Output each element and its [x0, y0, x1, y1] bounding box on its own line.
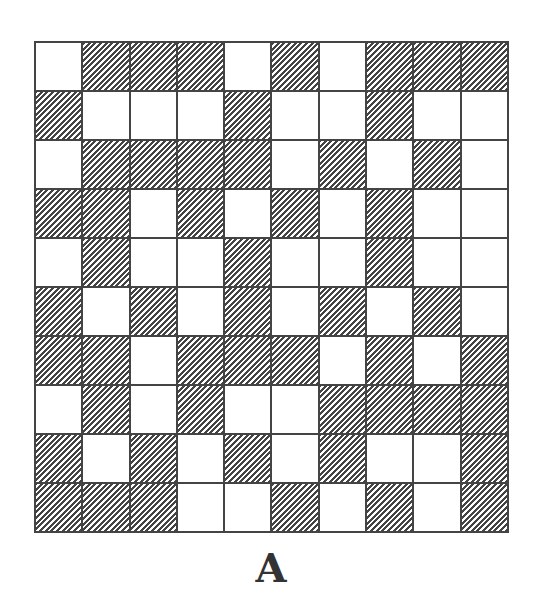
white-cell [272, 92, 317, 139]
white-cell [178, 92, 223, 139]
hatched-cell [367, 484, 412, 531]
hatched-cell [83, 386, 128, 433]
hatched-cell [131, 288, 176, 335]
white-cell [272, 239, 317, 286]
white-cell [225, 386, 270, 433]
hatched-cell [272, 43, 317, 90]
white-cell [36, 43, 81, 90]
white-cell [225, 190, 270, 237]
white-cell [83, 288, 128, 335]
hatched-cell [83, 239, 128, 286]
hatched-cell [320, 435, 365, 482]
white-cell [462, 288, 507, 335]
white-cell [272, 141, 317, 188]
hatched-cell [462, 43, 507, 90]
white-cell [83, 92, 128, 139]
hatched-cell [225, 141, 270, 188]
hatched-cell [367, 337, 412, 384]
hatched-cell [36, 92, 81, 139]
white-cell [272, 386, 317, 433]
hatched-cell [178, 141, 223, 188]
hatched-cell [272, 337, 317, 384]
hatched-cell [131, 484, 176, 531]
hatched-cell [131, 435, 176, 482]
pattern-grid [34, 41, 509, 533]
hatched-cell [36, 435, 81, 482]
hatched-cell [320, 141, 365, 188]
hatched-cell [414, 43, 459, 90]
hatched-cell [367, 386, 412, 433]
hatched-cell [83, 43, 128, 90]
hatched-cell [131, 141, 176, 188]
hatched-cell [83, 141, 128, 188]
white-cell [131, 386, 176, 433]
hatched-cell [462, 484, 507, 531]
hatched-cell [414, 386, 459, 433]
hatched-cell [178, 43, 223, 90]
hatched-cell [367, 43, 412, 90]
white-cell [272, 435, 317, 482]
hatched-cell [462, 337, 507, 384]
white-cell [320, 92, 365, 139]
white-cell [131, 92, 176, 139]
hatched-cell [36, 190, 81, 237]
white-cell [367, 141, 412, 188]
hatched-cell [225, 288, 270, 335]
white-cell [178, 288, 223, 335]
hatched-cell [414, 141, 459, 188]
white-cell [320, 190, 365, 237]
white-cell [462, 141, 507, 188]
hatched-cell [225, 92, 270, 139]
hatched-cell [178, 337, 223, 384]
white-cell [414, 190, 459, 237]
hatched-cell [367, 92, 412, 139]
hatched-cell [320, 288, 365, 335]
figure-label: A [0, 548, 542, 588]
white-cell [414, 484, 459, 531]
hatched-cell [83, 337, 128, 384]
hatched-cell [36, 484, 81, 531]
white-cell [178, 435, 223, 482]
white-cell [131, 239, 176, 286]
white-cell [36, 141, 81, 188]
hatched-cell [272, 484, 317, 531]
white-cell [225, 43, 270, 90]
hatched-cell [178, 386, 223, 433]
white-cell [462, 92, 507, 139]
hatched-cell [178, 190, 223, 237]
white-cell [367, 288, 412, 335]
hatched-cell [83, 190, 128, 237]
hatched-cell [36, 288, 81, 335]
white-cell [462, 239, 507, 286]
hatched-cell [462, 435, 507, 482]
white-cell [225, 484, 270, 531]
white-cell [178, 239, 223, 286]
white-cell [272, 288, 317, 335]
hatched-cell [225, 435, 270, 482]
white-cell [367, 435, 412, 482]
hatched-cell [320, 386, 365, 433]
hatched-cell [225, 239, 270, 286]
hatched-cell [462, 386, 507, 433]
white-cell [131, 337, 176, 384]
white-cell [131, 190, 176, 237]
white-cell [83, 435, 128, 482]
hatched-cell [83, 484, 128, 531]
white-cell [462, 190, 507, 237]
white-cell [414, 337, 459, 384]
white-cell [320, 337, 365, 384]
hatched-cell [36, 337, 81, 384]
white-cell [320, 484, 365, 531]
white-cell [414, 239, 459, 286]
hatched-cell [414, 288, 459, 335]
white-cell [320, 239, 365, 286]
white-cell [320, 43, 365, 90]
hatched-cell [367, 239, 412, 286]
hatched-cell [367, 190, 412, 237]
white-cell [414, 435, 459, 482]
hatched-cell [272, 190, 317, 237]
hatched-cell [225, 337, 270, 384]
white-cell [36, 239, 81, 286]
white-cell [178, 484, 223, 531]
hatched-cell [131, 43, 176, 90]
